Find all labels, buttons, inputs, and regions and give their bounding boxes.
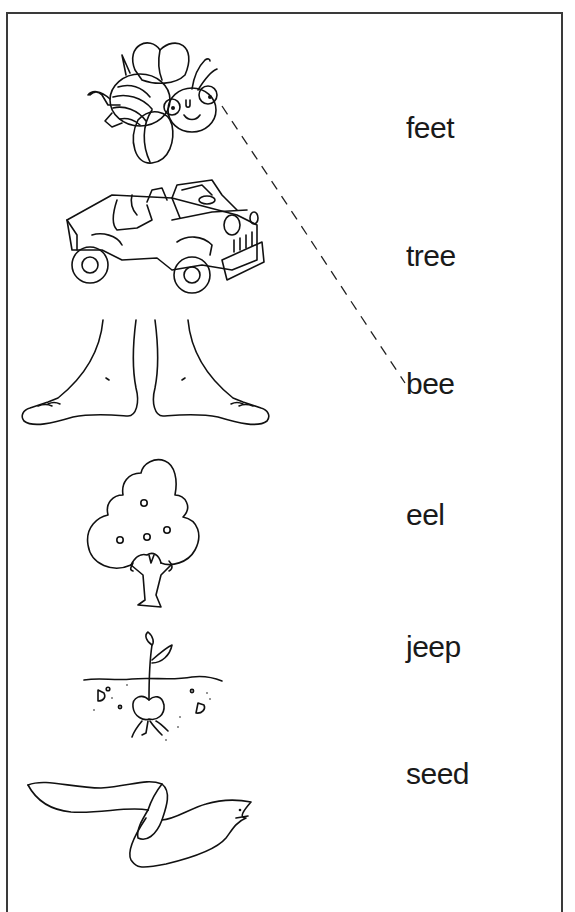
word-seed[interactable]: seed [406,759,469,789]
word-feet[interactable]: feet [406,113,454,143]
word-tree[interactable]: tree [406,241,456,271]
word-eel[interactable]: eel [406,500,445,530]
word-jeep[interactable]: jeep [406,632,461,662]
word-bee[interactable]: bee [406,369,455,399]
